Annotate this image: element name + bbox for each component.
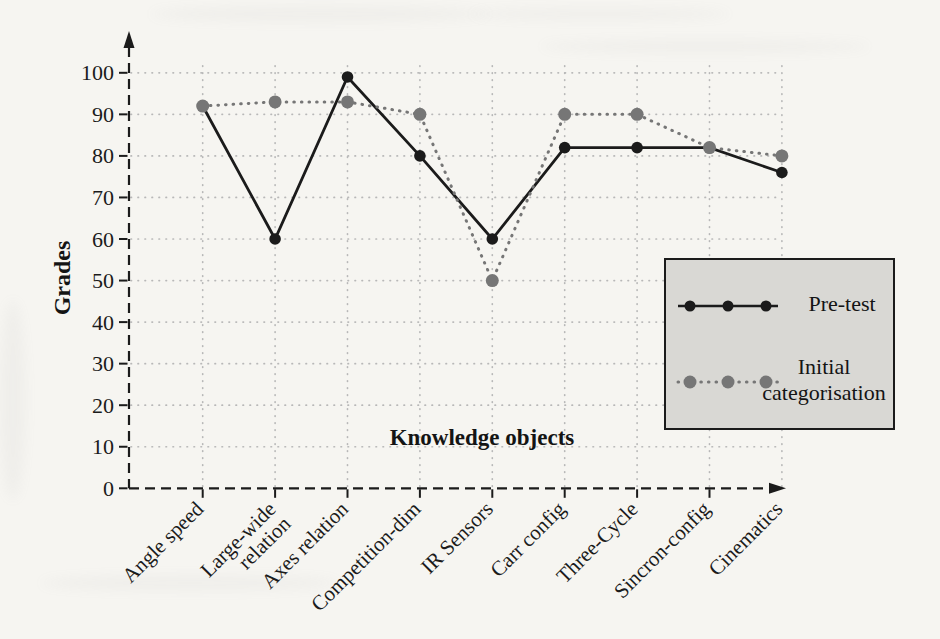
initial-categorisation-point	[631, 108, 644, 121]
y-axis-arrow-icon	[124, 31, 135, 48]
initial-categorisation-point	[341, 95, 354, 108]
y-axis-title: Grades	[49, 241, 76, 316]
y-tick-label: 50	[92, 268, 114, 293]
initial-categorisation-point	[196, 100, 209, 113]
y-tick-label: 70	[92, 185, 114, 210]
initial-categorisation-point	[269, 95, 282, 108]
pre-test-point	[631, 142, 643, 154]
initial-categorisation-point	[413, 108, 426, 121]
y-tick-label: 40	[92, 310, 114, 335]
scanned-book-page: 0102030405060708090100Angle speedLarge-w…	[0, 0, 940, 639]
pre-test-point	[487, 233, 499, 245]
y-tick-label: 0	[103, 476, 114, 501]
x-axis-arrow-icon	[769, 483, 786, 494]
y-tick-label: 60	[92, 227, 114, 252]
pre-test-point	[414, 150, 426, 162]
y-tick-label: 90	[92, 102, 114, 127]
initial-categorisation-point	[703, 141, 716, 154]
pre-test-point	[269, 233, 281, 245]
y-tick-label: 30	[92, 351, 114, 376]
legend-label-initial-categorisation: Initial categorisation	[756, 354, 892, 406]
legend-label-pretest: Pre-test	[794, 291, 890, 317]
y-tick-label: 80	[92, 143, 114, 168]
pre-test-point	[342, 71, 354, 83]
legend-box: Pre-test Initial categorisation	[664, 258, 895, 430]
pre-test-point	[559, 142, 571, 154]
y-tick-label: 100	[81, 60, 114, 85]
pretest-line-swatch-icon	[676, 295, 780, 317]
initial-categorisation-point	[775, 149, 788, 162]
y-tick-label: 20	[92, 393, 114, 418]
pre-test-point	[776, 167, 788, 179]
initial-categorisation-point	[486, 274, 499, 287]
x-category-label: Angle speed	[117, 497, 208, 588]
x-axis-title: Knowledge objects	[390, 425, 575, 451]
y-tick-label: 10	[92, 434, 114, 459]
x-category-label: Cinematics	[704, 497, 788, 581]
initial-categorisation-point	[558, 108, 571, 121]
